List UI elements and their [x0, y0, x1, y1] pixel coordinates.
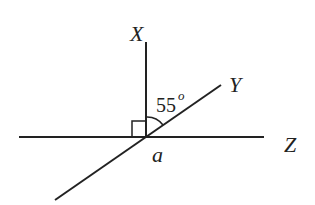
label-x: X	[129, 21, 145, 46]
angle-arc	[146, 117, 163, 125]
label-vertex-a: a	[152, 142, 163, 167]
angle-value: 55	[156, 94, 176, 116]
geometry-diagram: X Y Z a 55 o	[0, 0, 315, 205]
right-angle-marker	[132, 121, 146, 137]
label-z: Z	[284, 132, 297, 157]
label-y: Y	[229, 72, 244, 97]
angle-degree-symbol: o	[178, 88, 185, 103]
line-y	[55, 85, 221, 200]
